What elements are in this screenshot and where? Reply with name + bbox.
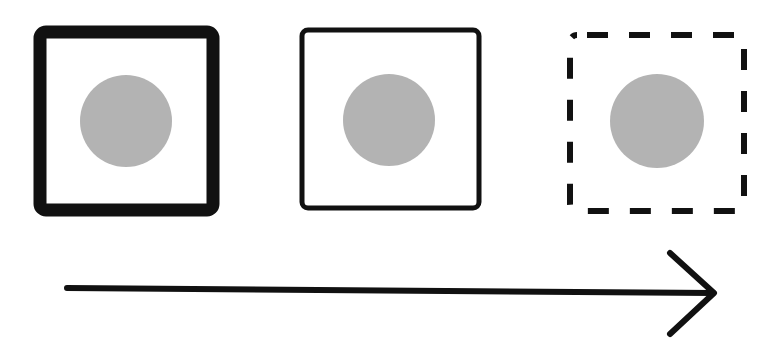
box-dashed [570,35,744,211]
gray-circle [343,74,435,166]
border-progression-diagram [0,0,780,351]
right-arrow-icon [67,253,714,334]
gray-circle [80,75,172,167]
gray-circle [610,74,704,168]
box-thick-solid [40,32,213,210]
box-thin-solid [302,30,479,208]
